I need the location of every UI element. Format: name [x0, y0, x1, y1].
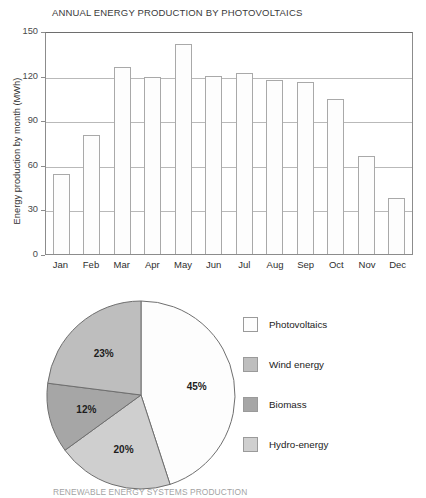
pie-chart: 45%20%12%23% PhotovoltaicsWind energyBio… — [0, 288, 426, 498]
bar — [388, 198, 405, 254]
bar-slot — [321, 33, 352, 254]
pie-svg — [45, 299, 237, 491]
legend-label: Photovoltaics — [269, 319, 327, 330]
legend-label: Biomass — [269, 399, 307, 410]
bar — [53, 174, 70, 254]
y-axis-tick-label: 150 — [0, 26, 38, 36]
bar — [327, 99, 344, 254]
y-axis-tick-mark — [41, 77, 45, 78]
bar-chart-title: ANNUAL ENERGY PRODUCTION BY PHOTOVOLTAIC… — [52, 7, 302, 18]
bar — [236, 73, 253, 254]
bar — [175, 44, 192, 254]
bar-slot — [290, 33, 321, 254]
y-axis-tick-mark — [41, 121, 45, 122]
bar — [205, 76, 222, 254]
bar-slot — [77, 33, 108, 254]
pie-legend: PhotovoltaicsWind energyBiomassHydro-ene… — [243, 315, 418, 475]
legend-item: Wind energy — [243, 355, 418, 374]
legend-swatch — [243, 357, 258, 372]
bar-slot — [138, 33, 169, 254]
bar-chart: ANNUAL ENERGY PRODUCTION BY PHOTOVOLTAIC… — [0, 0, 426, 285]
bar-chart-plot-area — [45, 32, 413, 255]
pie-slice-label: 20% — [114, 443, 134, 454]
bar — [144, 77, 161, 254]
bar — [114, 67, 131, 254]
bar-slot — [382, 33, 413, 254]
bar-series — [46, 33, 412, 254]
pie-slice-label: 45% — [187, 381, 207, 392]
y-axis-tick-label: 90 — [0, 115, 38, 125]
y-axis-tick-label: 30 — [0, 204, 38, 214]
bar — [297, 82, 314, 254]
pie-graphic: 45%20%12%23% — [45, 299, 237, 491]
y-axis-tick-mark — [41, 166, 45, 167]
bar-slot — [46, 33, 77, 254]
y-axis-tick-label: 0 — [0, 249, 38, 259]
bar-slot — [229, 33, 260, 254]
bar — [83, 135, 100, 254]
y-axis-tick-mark — [41, 255, 45, 256]
bar-slot — [351, 33, 382, 254]
bar — [266, 80, 283, 254]
legend-label: Wind energy — [269, 359, 324, 370]
pie-slice-label: 12% — [76, 404, 96, 415]
bar-slot — [260, 33, 291, 254]
y-axis-tick-mark — [41, 210, 45, 211]
legend-swatch — [243, 397, 258, 412]
bar-slot — [168, 33, 199, 254]
legend-swatch — [243, 317, 258, 332]
pie-slice-label: 23% — [94, 347, 114, 358]
y-axis-tick-label: 60 — [0, 160, 38, 170]
bar-slot — [107, 33, 138, 254]
y-axis-tick-label: 120 — [0, 71, 38, 81]
legend-swatch — [243, 437, 258, 452]
x-axis-tick-label: Dec — [378, 259, 418, 270]
legend-item: Hydro-energy — [243, 435, 418, 454]
y-axis-tick-mark — [41, 32, 45, 33]
pie-chart-title: RENEWABLE ENERGY SYSTEMS PRODUCTION — [53, 487, 247, 497]
figure-page: ANNUAL ENERGY PRODUCTION BY PHOTOVOLTAIC… — [0, 0, 426, 498]
legend-item: Photovoltaics — [243, 315, 418, 334]
legend-item: Biomass — [243, 395, 418, 414]
bar-slot — [199, 33, 230, 254]
bar — [358, 156, 375, 254]
legend-label: Hydro-energy — [269, 439, 328, 450]
